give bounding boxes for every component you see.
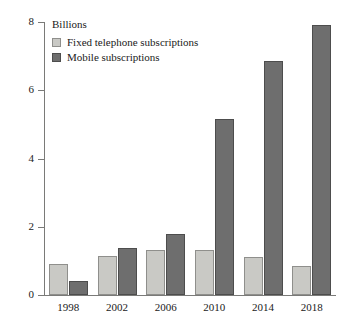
y-axis-line [44,22,45,296]
y-tick-mark-0 [38,295,44,296]
bar-mobile-2018 [312,25,331,295]
x-tick-label-2002: 2002 [94,301,140,313]
x-tick-label-1998: 1998 [45,301,91,313]
bar-fixed-2010 [195,250,214,295]
legend-label-mobile: Mobile subscriptions [67,51,160,64]
bar-fixed-2006 [146,250,165,295]
bar-mobile-2006 [166,234,185,295]
y-tick-label-2: 2 [4,221,34,232]
legend-unit-label: Billions [52,18,198,31]
y-tick-label-0: 0 [4,289,34,300]
bar-mobile-1998 [69,281,88,295]
legend-swatch-fixed-icon [52,38,61,47]
y-tick-label-4: 4 [4,153,34,164]
x-axis-line [44,295,336,296]
legend-label-fixed: Fixed telephone subscriptions [67,36,198,49]
x-tick-label-2014: 2014 [240,301,286,313]
legend-item-fixed: Fixed telephone subscriptions [52,36,198,49]
bar-fixed-1998 [49,264,68,295]
y-tick-label-8: 8 [4,16,34,27]
chart-legend: Billions Fixed telephone subscriptions M… [52,18,198,66]
y-tick-mark-8 [38,22,44,23]
bar-mobile-2002 [118,248,137,295]
legend-item-mobile: Mobile subscriptions [52,51,198,64]
y-tick-mark-2 [38,227,44,228]
y-tick-mark-4 [38,159,44,160]
bar-mobile-2014 [264,61,283,295]
x-tick-label-2010: 2010 [191,301,237,313]
bar-fixed-2002 [98,256,117,295]
x-tick-label-2006: 2006 [143,301,189,313]
x-tick-label-2018: 2018 [289,301,335,313]
bar-fixed-2018 [292,266,311,295]
bar-chart: 02468 199820022006201020142018 Billions … [0,0,345,332]
y-tick-mark-6 [38,90,44,91]
legend-swatch-mobile-icon [52,53,61,62]
y-tick-label-6: 6 [4,84,34,95]
bar-mobile-2010 [215,119,234,295]
bar-fixed-2014 [244,257,263,295]
